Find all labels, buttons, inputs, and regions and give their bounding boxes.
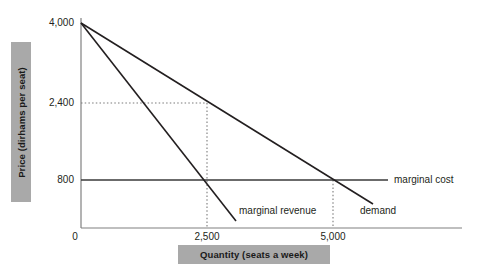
y-tick-label-800: 800 bbox=[30, 174, 74, 185]
economics-monopoly-chart: 4,000 2,400 800 0 2,500 5,000 marginal c… bbox=[0, 0, 485, 276]
x-tick-label-2500: 2,500 bbox=[182, 231, 232, 242]
marginal-revenue-label: marginal revenue bbox=[239, 205, 316, 216]
x-axis-title: Quantity (seats a week) bbox=[178, 245, 330, 264]
x-tick-label-5000: 5,000 bbox=[308, 231, 358, 242]
y-axis-title-text: Price (dirhams per seat) bbox=[16, 67, 27, 178]
y-tick-label-2400: 2,400 bbox=[30, 97, 74, 108]
y-tick-label-4000: 4,000 bbox=[30, 17, 74, 28]
demand-label: demand bbox=[360, 205, 396, 216]
x-axis-title-text: Quantity (seats a week) bbox=[200, 249, 308, 260]
marginal-revenue-line bbox=[81, 23, 236, 221]
demand-line bbox=[81, 23, 373, 204]
marginal-cost-label: marginal cost bbox=[394, 174, 453, 185]
y-axis-title: Price (dirhams per seat) bbox=[11, 42, 31, 202]
x-tick-label-0: 0 bbox=[63, 231, 87, 242]
